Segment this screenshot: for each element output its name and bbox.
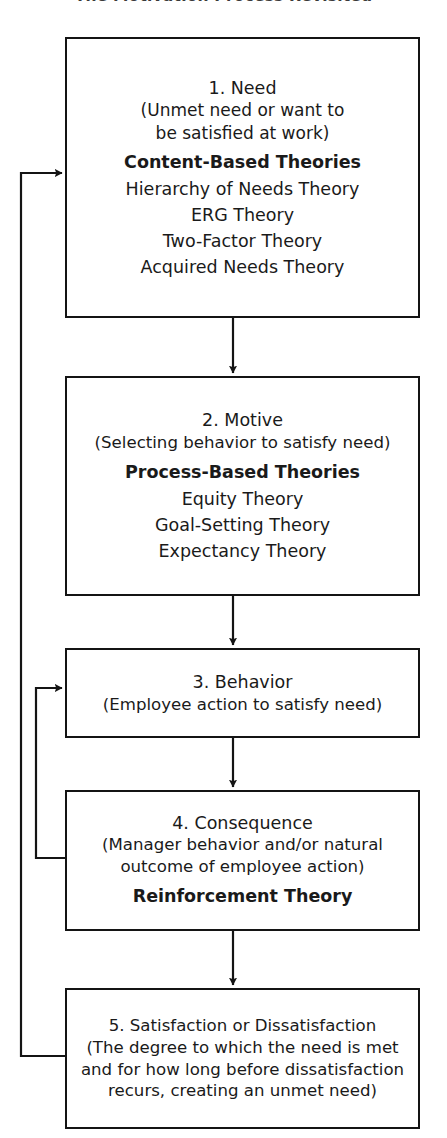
- node-need-description-line-2: be satisfied at work): [67, 122, 418, 144]
- node-need-heading: 1. Need: [67, 77, 418, 100]
- node-need-group-label: Content-Based Theories: [67, 151, 418, 174]
- node-need-theory-3: Two-Factor Theory: [67, 230, 418, 253]
- node-behavior-description-line-1: (Employee action to satisfy need): [67, 694, 418, 716]
- node-motive-heading: 2. Motive: [67, 409, 418, 432]
- node-consequence: 4. Consequence (Manager behavior and/or …: [65, 790, 420, 931]
- node-motive-theory-1: Equity Theory: [67, 488, 418, 511]
- node-motive: 2. Motive (Selecting behavior to satisfy…: [65, 376, 420, 596]
- feedback-consequence-to-behavior: [36, 688, 65, 858]
- node-behavior: 3. Behavior (Employee action to satisfy …: [65, 648, 420, 738]
- node-behavior-heading: 3. Behavior: [67, 671, 418, 694]
- node-motive-group-label: Process-Based Theories: [67, 461, 418, 484]
- node-need-theory-2: ERG Theory: [67, 204, 418, 227]
- node-consequence-heading: 4. Consequence: [67, 812, 418, 835]
- node-motive-theory-2: Goal-Setting Theory: [67, 514, 418, 537]
- node-consequence-description-line-1: (Manager behavior and/or natural: [67, 834, 418, 856]
- node-satisfaction-description-line-1: (The degree to which the need is met: [67, 1037, 418, 1059]
- node-motive-description-line-1: (Selecting behavior to satisfy need): [67, 432, 418, 454]
- node-satisfaction: 5. Satisfaction or Dissatisfaction (The …: [65, 988, 420, 1129]
- node-satisfaction-description-line-2: and for how long before dissatisfaction: [67, 1059, 418, 1081]
- node-need-theory-1: Hierarchy of Needs Theory: [67, 178, 418, 201]
- node-need: 1. Need (Unmet need or want to be satisf…: [65, 37, 420, 318]
- node-satisfaction-description-line-3: recurs, creating an unmet need): [67, 1080, 418, 1102]
- node-need-theory-4: Acquired Needs Theory: [67, 256, 418, 279]
- node-satisfaction-heading: 5. Satisfaction or Dissatisfaction: [67, 1015, 418, 1037]
- node-consequence-group-label: Reinforcement Theory: [67, 885, 418, 908]
- node-consequence-description-line-2: outcome of employee action): [67, 856, 418, 878]
- node-need-description-line-1: (Unmet need or want to: [67, 99, 418, 121]
- motivation-process-diagram: The Motivation Process Revisited 1. Need…: [0, 0, 447, 1138]
- node-motive-theory-3: Expectancy Theory: [67, 540, 418, 563]
- feedback-satisfaction-to-need: [21, 173, 65, 1056]
